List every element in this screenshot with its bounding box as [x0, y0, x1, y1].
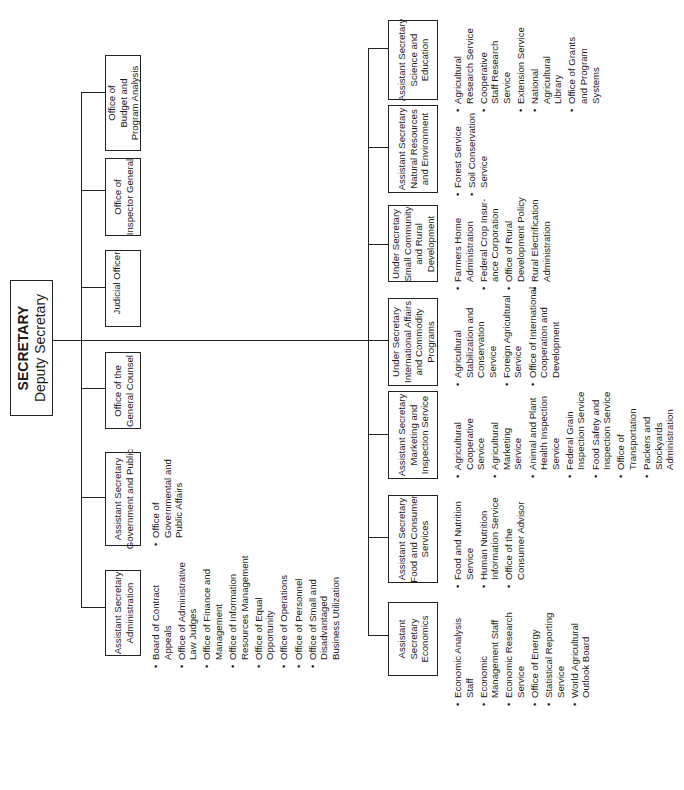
list-item: Food Safety andInspection Service [590, 392, 613, 478]
label-line: Office of the [112, 355, 124, 427]
list-item: Soil ConservationService [466, 113, 489, 196]
mission-branch-natres [368, 147, 388, 148]
label-line: Office of [106, 66, 118, 141]
label-line: Assistant Secretary [396, 394, 408, 477]
secretary-title: SECRETARY [15, 294, 32, 402]
list-item: Food and NutritionService [452, 497, 475, 588]
govpublic-list: Office ofGovernmental andPublic Affairs [150, 459, 187, 546]
label-line: General Counsel [123, 355, 135, 427]
staff-branch-counsel [81, 388, 105, 389]
label-line: Assistant Secretary [112, 449, 124, 549]
mission-branch-smallcomm [368, 244, 388, 245]
asst-sec-food-consumer-box: Assistant SecretaryFood and ConsumerServ… [388, 495, 438, 583]
list-item: Office of InformationResources Managemen… [227, 555, 250, 668]
list-item: Office of Operations [278, 555, 290, 668]
list-item: Extension Service [515, 27, 527, 112]
general-counsel-box: Office of theGeneral Counsel [105, 352, 141, 429]
label-line: Food and Consumer [407, 495, 419, 582]
international-affairs-list: AgriculturalStabilization andConservatio… [452, 287, 564, 386]
label-line: and Rural [413, 206, 425, 281]
asst-sec-admin-box: Assistant SecretaryAdministration [105, 570, 141, 656]
admin-list: Board of ContractAppeals Office of Admin… [150, 555, 344, 668]
list-item: Forest Service [452, 113, 464, 196]
staff-branch-govpublic [81, 497, 105, 498]
list-item: AgriculturalStabilization andConservatio… [452, 287, 498, 386]
judicial-officer-box: Judicial Officer [105, 250, 141, 327]
staff-branch-inspector [81, 190, 105, 191]
label-line: Programs [425, 301, 437, 383]
list-item: CooperativeStaff ResearchService [478, 27, 513, 112]
asst-sec-marketing-inspection-box: Assistant SecretaryMarketing andInspecti… [388, 391, 438, 479]
list-item: Office of Finance andManagement [201, 555, 224, 668]
list-item: Office of theConsumer Advisor [503, 497, 526, 588]
mission-trunk [368, 48, 369, 636]
asst-sec-economics-box: AssistantSecretaryEconomics [388, 602, 438, 676]
label-line: Assistant Secretary [396, 108, 408, 191]
office-budget-box: Office ofBudget andProgram Analysis [105, 55, 141, 151]
small-community-list: Farmers HomeAdministration Federal Crop … [452, 197, 555, 290]
science-education-list: AgriculturalResearch Service Cooperative… [452, 27, 604, 112]
list-item: AgriculturalMarketingService [489, 392, 524, 478]
asst-sec-science-education-box: Assistant SecretaryScience andEducation [388, 20, 438, 100]
list-item: Farmers HomeAdministration [452, 197, 475, 290]
list-item: NationalAgriculturalLibrary [529, 27, 564, 112]
marketing-inspection-list: AgriculturalCooperativeService Agricultu… [452, 392, 678, 478]
list-item: Economic ResearchService [503, 612, 526, 706]
list-item: Office ofTransportation [615, 392, 638, 478]
label-line: Program Analysis [129, 66, 141, 141]
under-sec-small-community-box: Under SecretarySmall Communityand RuralD… [388, 205, 438, 282]
office-inspector-general-box: Office ofInspector General [105, 158, 141, 236]
mission-branch-scied [368, 48, 388, 49]
economics-list: Economic AnalysisStaff EconomicManagemen… [452, 612, 595, 706]
label-line: Inspection Service [419, 394, 431, 477]
label-line: Science and [407, 19, 419, 102]
label-line: Services [419, 495, 431, 582]
label-line: Marketing and [407, 394, 419, 477]
staff-branch-judicial [81, 287, 105, 288]
natural-resources-list: Forest Service Soil ConservationService [452, 113, 492, 196]
label-line: Office of [112, 159, 124, 235]
list-item: Rural ElectrificationAdministration [529, 197, 552, 290]
asst-sec-natural-resources-box: Assistant SecretaryNatural Resourcesand … [388, 105, 438, 193]
label-line: Administration [123, 572, 135, 655]
under-sec-international-affairs-box: Under SecretaryInternational Affairsand … [388, 298, 438, 386]
label-line: Economics [419, 616, 431, 663]
list-item: EconomicManagement Staff [478, 612, 501, 706]
list-item: Packers andStockyardsAdministration [641, 392, 676, 478]
list-item: Office of InternationalCooperation andDe… [527, 287, 562, 386]
label-line: Under Secretary [390, 301, 402, 383]
list-item: AgriculturalResearch Service [452, 27, 475, 112]
main-connector [52, 340, 388, 341]
list-item: Office ofGovernmental andPublic Affairs [150, 459, 185, 546]
label-line: Education [419, 19, 431, 102]
label-line: Judicial Officer [111, 251, 123, 314]
deputy-secretary-title: Deputy Secretary [32, 294, 49, 402]
label-line: Assistant Secretary [396, 19, 408, 102]
list-item: Office of Grantsand ProgramSystems [566, 27, 601, 112]
list-item: Human NutritionInformation Service [478, 497, 501, 588]
mission-branch-econ [368, 635, 388, 636]
list-item: Economic AnalysisStaff [452, 612, 475, 706]
label-line: Under Secretary [390, 206, 402, 281]
list-item: Foreign AgriculturalService [501, 287, 524, 386]
list-item: Animal and PlantHealth InspectionService [527, 392, 562, 478]
staff-trunk [81, 92, 82, 608]
list-item: Office of Personnel [293, 555, 305, 668]
list-item: Federal GrainInspection Service [564, 392, 587, 478]
list-item: AgriculturalCooperativeService [452, 392, 487, 478]
list-item: Office of Energy [529, 612, 541, 706]
staff-branch-budget [81, 92, 105, 93]
label-line: Government and Public [123, 449, 135, 549]
list-item: World AgriculturalOutlook Board [569, 612, 592, 706]
list-item: Federal Crop Insur-ance Corporation [478, 197, 501, 290]
label-line: Development [425, 206, 437, 281]
asst-sec-govpublic-box: Assistant SecretaryGovernment and Public [105, 452, 141, 546]
label-line: Inspector General [123, 159, 135, 235]
list-item: Office of EqualOpportunity [253, 555, 276, 668]
label-line: and Environment [419, 108, 431, 191]
list-item: Office of AdministrativeLaw Judges [176, 555, 199, 668]
label-line: International Affairs [402, 301, 414, 383]
list-item: Statistical ReportingService [543, 612, 566, 706]
mission-branch-food [368, 537, 388, 538]
list-item: Board of ContractAppeals [150, 555, 173, 668]
